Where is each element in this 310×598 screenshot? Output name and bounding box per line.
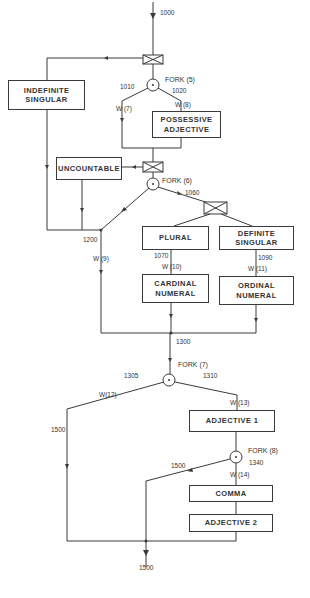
box-cardinal-numeral: CARDINAL NUMERAL [142,274,209,303]
label-w14: W (14) [230,471,250,479]
label-1500-exit: 1500 [139,564,153,572]
label-1340: 1340 [249,459,263,467]
box-possessive-adjective: POSSESSIVE ADJECTIVE [152,111,221,138]
label-1090: 1090 [258,254,272,262]
label-w13: W (13) [230,399,250,407]
label-1060: 1060 [185,189,199,197]
box-comma: COMMA [189,485,273,502]
label-1010: 1010 [120,83,134,91]
label-w8: W (8) [175,101,191,109]
box-adjective-2: ADJECTIVE 2 [189,514,273,532]
label-1020: 1020 [172,87,186,95]
label-w7: W (7) [116,105,132,113]
box-uncountable: UNCOUNTABLE [56,157,122,180]
label-fork-7: FORK (7) [178,361,208,369]
box-definite-singular: DEFINITE SINGULAR [219,226,294,250]
label-fork-6: FORK (6) [162,177,192,185]
arrow-down-icon [150,13,156,19]
box-plural: PLURAL [142,226,209,250]
label-1200: 1200 [83,236,97,244]
label-w9: W (9) [93,255,109,263]
label-fork-5: FORK (5) [165,76,195,84]
box-adjective-1: ADJECTIVE 1 [189,410,275,432]
flow-diagram: INDEFINITE SINGULAR POSSESSIVE ADJECTIVE… [0,0,310,598]
label-1500-mid: 1500 [171,462,185,470]
label-w12: W(12) [99,391,117,399]
label-w10: W (10) [162,263,182,271]
label-1300: 1300 [176,338,190,346]
label-fork-8: FORK (8) [248,447,278,455]
box-ordinal-numeral: ORDINAL NUMERAL [219,276,294,305]
label-1305: 1305 [124,372,138,380]
exit-arrow-icon [143,550,149,556]
box-indefinite-singular: INDEFINITE SINGULAR [8,80,85,110]
label-1070: 1070 [154,252,168,260]
label-1000: 1000 [160,9,174,17]
label-1310: 1310 [203,372,217,380]
label-w11: W (11) [248,265,267,273]
label-1500-left: 1500 [51,426,65,434]
